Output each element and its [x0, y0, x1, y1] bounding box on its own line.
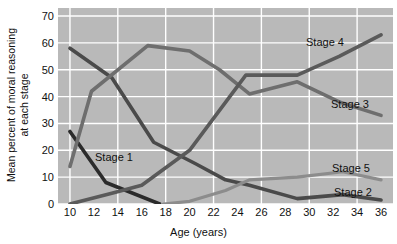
series-label-stage-2: Stage 2 — [334, 186, 372, 198]
series-label-stage-1: Stage 1 — [95, 151, 133, 163]
y-axis-title-line1: Mean percent of moral reasoning — [5, 28, 18, 182]
y-tick-label: 60 — [30, 37, 54, 49]
y-tick-label: 30 — [30, 117, 54, 129]
y-tick-label: 50 — [30, 64, 54, 76]
series-label-stage-4: Stage 4 — [306, 36, 344, 48]
chart-figure: Mean percent of moral reasoning at each … — [0, 0, 397, 244]
y-tick-label: 10 — [30, 171, 54, 183]
x-axis-tick-labels: 1012141618202224262830323436 — [0, 206, 397, 222]
series-label-stage-3: Stage 3 — [331, 98, 369, 110]
y-tick-label: 70 — [30, 10, 54, 22]
series-label-stage-5: Stage 5 — [332, 162, 370, 174]
y-tick-label: 40 — [30, 91, 54, 103]
y-tick-label: 20 — [30, 144, 54, 156]
x-tick-label: 36 — [366, 206, 396, 218]
series-lines — [70, 35, 381, 204]
x-axis-title: Age (years) — [0, 226, 397, 238]
